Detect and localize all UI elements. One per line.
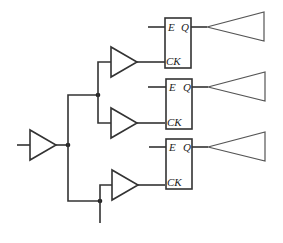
output-driver-1-icon — [207, 12, 264, 41]
clock-tree-diagram: E Q CK E Q CK E Q CK — [0, 0, 283, 243]
ff2-output-label: Q — [183, 81, 191, 93]
lower-branch-wire — [100, 185, 112, 223]
root-buffer-icon — [30, 130, 56, 160]
upper-branch-wire — [98, 62, 111, 123]
upper-branch — [96, 47, 165, 138]
trunk-wire — [68, 95, 100, 201]
output-driver-3-icon — [208, 132, 265, 161]
ff3-enable-label: E — [168, 141, 176, 153]
output-driver-2-icon — [208, 72, 265, 101]
lower-branch — [98, 170, 165, 223]
ff2-enable-label: E — [168, 81, 176, 93]
buffer-upper-2-icon — [111, 108, 137, 138]
root-buffer-group — [17, 130, 70, 160]
ff3-output-label: Q — [183, 141, 191, 153]
buffer-lower-icon — [112, 170, 138, 200]
flip-flop-1: E Q CK — [148, 12, 264, 68]
ff1-enable-label: E — [167, 21, 175, 33]
buffer-upper-1-icon — [111, 47, 137, 77]
ff1-output-label: Q — [181, 21, 189, 33]
ff1-clock-label: CK — [166, 55, 181, 67]
flip-flop-3: E Q CK — [149, 132, 265, 189]
ff2-clock-label: CK — [167, 116, 182, 128]
flip-flop-2: E Q CK — [148, 72, 265, 129]
ff3-clock-label: CK — [167, 176, 182, 188]
